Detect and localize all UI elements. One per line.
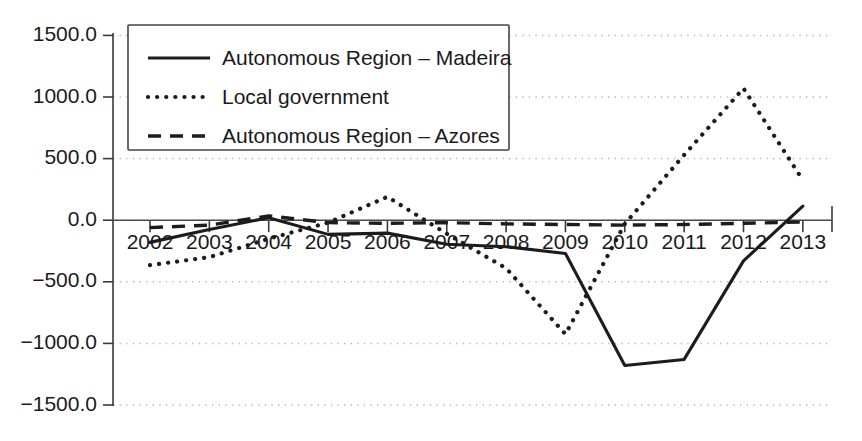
x-tick-label-2002: 2002 [127, 230, 174, 253]
y-tick-label--1500: −1500.0 [21, 392, 98, 415]
y-tick-label--1000: −1000.0 [21, 330, 98, 353]
x-axis-tick-labels: 2002200320042005200620072008200920102011… [127, 230, 827, 253]
legend-label-0: Autonomous Region – Madeira [222, 46, 512, 69]
legend-label-1: Local government [222, 85, 389, 108]
x-tick-label-2012: 2012 [720, 230, 767, 253]
x-tick-label-2008: 2008 [483, 230, 530, 253]
y-tick-label-1500: 1500.0 [33, 22, 97, 45]
x-tick-label-2004: 2004 [245, 230, 292, 253]
x-tick-label-2006: 2006 [364, 230, 411, 253]
x-tick-label-2010: 2010 [601, 230, 648, 253]
chart-legend[interactable]: Autonomous Region – MadeiraLocal governm… [128, 25, 512, 150]
chart-canvas: 1500.01000.0500.00.0−500.0−1000.0−1500.0… [0, 0, 862, 441]
y-tick-label-500: 500.0 [44, 145, 97, 168]
y-axis-tick-labels: 1500.01000.0500.00.0−500.0−1000.0−1500.0 [21, 22, 98, 415]
x-tick-label-2007: 2007 [423, 230, 470, 253]
x-tick-label-2011: 2011 [662, 230, 707, 253]
y-tick-label--500: −500.0 [32, 268, 97, 291]
x-tick-label-2003: 2003 [186, 230, 233, 253]
x-tick-label-2013: 2013 [779, 230, 826, 253]
x-tick-label-2009: 2009 [542, 230, 589, 253]
chart-figure: 1500.01000.0500.00.0−500.0−1000.0−1500.0… [0, 0, 862, 441]
y-tick-label-0: 0.0 [68, 207, 97, 230]
y-tick-label-1000: 1000.0 [33, 84, 97, 107]
x-tick-label-2005: 2005 [305, 230, 352, 253]
legend-label-2: Autonomous Region – Azores [222, 124, 500, 147]
